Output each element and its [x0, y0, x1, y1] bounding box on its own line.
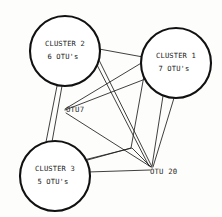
- cluster-node-2[interactable]: CLUSTER 26 OTU's: [30, 16, 100, 86]
- cluster-network-diagram: CLUSTER 17 OTU'sCLUSTER 26 OTU'sCLUSTER …: [0, 0, 222, 217]
- edge-cluster2-cluster1: [99, 49, 143, 57]
- clusters-layer: CLUSTER 17 OTU'sCLUSTER 26 OTU'sCLUSTER …: [20, 16, 211, 211]
- cluster-3-count: 5 OTU's: [38, 177, 69, 186]
- cluster-1-title: CLUSTER 1: [156, 51, 196, 60]
- cluster-1-count: 7 OTU's: [159, 64, 190, 73]
- edge-cluster2-cluster3: [52, 86, 62, 142]
- cluster-2-title: CLUSTER 2: [45, 39, 85, 48]
- cluster-3-title: CLUSTER 3: [35, 164, 75, 173]
- otu-7-node[interactable]: OTU7: [66, 105, 84, 114]
- graph-canvas: CLUSTER 17 OTU'sCLUSTER 26 OTU'sCLUSTER …: [0, 0, 222, 217]
- edge-cluster2-cluster3: [46, 86, 57, 142]
- otu-20-node[interactable]: OTU 20: [150, 167, 177, 176]
- edge-cluster1-otu20: [152, 96, 163, 166]
- edge-cluster1-otu20: [153, 98, 174, 167]
- cluster-node-3[interactable]: CLUSTER 35 OTU's: [20, 141, 90, 211]
- edge-cluster3-otu20: [88, 170, 150, 172]
- edge-cluster1-cluster3: [84, 70, 145, 161]
- otu-7-label: OTU7: [66, 105, 84, 114]
- otu-20-label: OTU 20: [150, 167, 177, 176]
- cluster-node-1[interactable]: CLUSTER 17 OTU's: [141, 28, 211, 98]
- cluster-2-count: 6 OTU's: [48, 52, 79, 61]
